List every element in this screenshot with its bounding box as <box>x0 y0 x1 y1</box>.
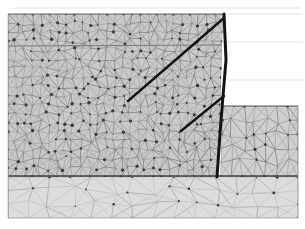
finite-element-mesh-canvas <box>0 0 305 229</box>
mesh-figure: Triangular finite element mesh of a laye… <box>0 0 305 229</box>
